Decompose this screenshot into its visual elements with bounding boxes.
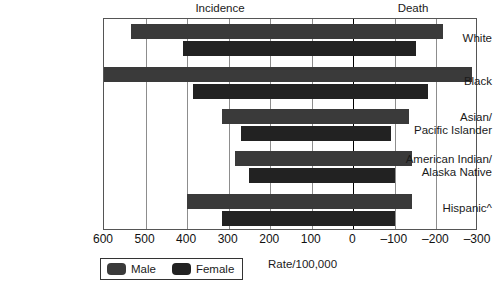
legend-swatch-female	[172, 263, 191, 275]
incidence-section-label: Incidence	[180, 2, 260, 15]
bar-female-0	[183, 41, 416, 56]
x-tick-2: 400	[164, 232, 208, 246]
x-tick-3: 300	[206, 232, 250, 246]
legend-label-male: Male	[131, 263, 156, 275]
category-label-0: White	[392, 32, 492, 46]
category-label-3: American Indian/ Alaska Native	[392, 153, 492, 180]
category-label-1: Black	[392, 75, 492, 89]
x-tick-6: 0	[330, 232, 374, 246]
x-axis-title: Rate/100,000	[268, 258, 337, 270]
category-label-4: Hispanic^	[392, 202, 492, 216]
bar-female-4	[222, 211, 394, 226]
legend-swatch-male	[107, 263, 126, 275]
bar-male-4	[187, 194, 411, 209]
bar-male-3	[235, 151, 412, 166]
gridline	[146, 19, 147, 229]
death-section-label: Death	[378, 2, 448, 15]
legend: Male Female	[100, 258, 243, 280]
bar-male-2	[222, 109, 409, 124]
bar-female-2	[241, 126, 391, 141]
legend-label-female: Female	[196, 263, 234, 275]
x-tick-7: –100	[372, 232, 416, 246]
x-tick-0: 600	[81, 232, 125, 246]
x-tick-5: 100	[289, 232, 333, 246]
bar-female-3	[249, 168, 394, 183]
x-tick-9: –300	[455, 232, 497, 246]
x-tick-8: –200	[413, 232, 457, 246]
x-tick-4: 200	[247, 232, 291, 246]
category-label-2: Asian/ Pacific Islander	[392, 111, 492, 138]
x-tick-1: 500	[123, 232, 167, 246]
